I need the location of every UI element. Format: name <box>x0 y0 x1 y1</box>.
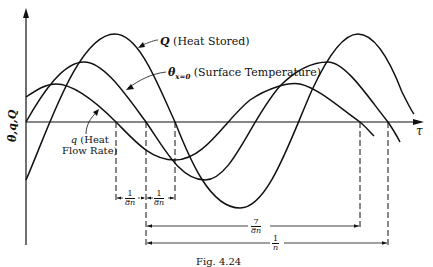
dim-1-8n-b: 1 8n <box>154 190 164 207</box>
label-theta-text: (Surface Temperature) <box>194 66 321 79</box>
dim-1-n: 1 n <box>272 235 279 252</box>
label-theta-subscript: x=0 <box>175 72 190 81</box>
label-Q-text: (Heat Stored) <box>173 35 250 48</box>
leader-Q-arrow-icon <box>138 42 145 48</box>
label-q-line1: (Heat <box>80 134 109 145</box>
x-axis-label: τ <box>416 124 423 138</box>
y-axis-arrow-icon <box>23 8 29 18</box>
label-Q-symbol: Q <box>160 35 170 48</box>
dim-7-8n: 7 8n <box>251 218 261 235</box>
figure-caption: Fig. 4.24 <box>196 256 241 267</box>
dim-2-den: 8n <box>154 199 164 207</box>
dim-1-den: 8n <box>125 199 135 207</box>
curve-Q <box>26 34 414 208</box>
dim-4-den: n <box>272 244 279 252</box>
label-q: q (Heat Flow Rate) <box>62 134 117 156</box>
dim-3-den: 8n <box>251 227 261 235</box>
leader-q <box>86 112 97 134</box>
label-q-line2: Flow Rate) <box>62 145 117 156</box>
dim-1-8n-a: 1 8n <box>125 190 135 207</box>
y-axis-label: θ,q,Q <box>6 110 19 142</box>
label-q-symbol: q <box>71 134 77 145</box>
leader-theta <box>128 72 166 88</box>
label-theta: θx=0 (Surface Temperature) <box>168 66 321 81</box>
label-Q: Q (Heat Stored) <box>160 35 250 48</box>
